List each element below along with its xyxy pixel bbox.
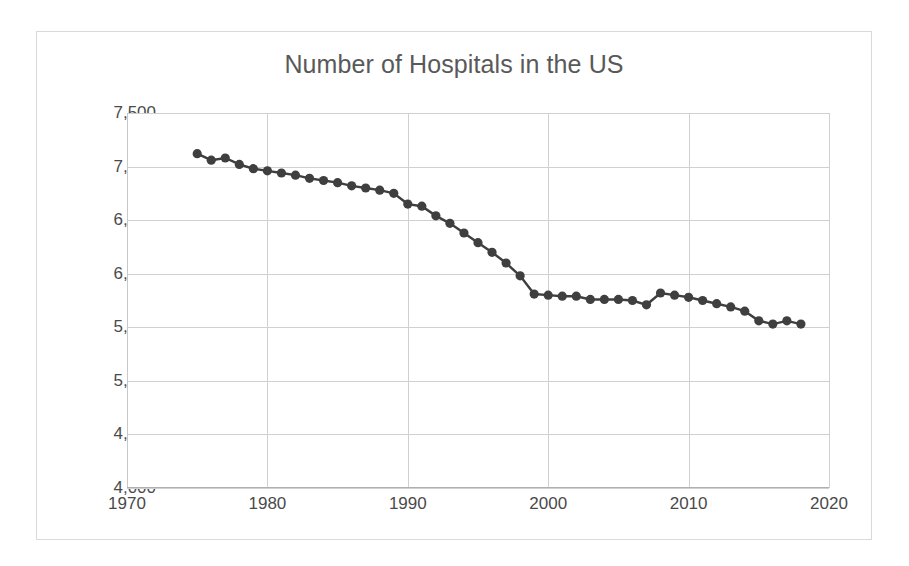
data-point-marker <box>417 202 426 211</box>
data-point-marker <box>207 156 216 165</box>
x-axis-tick-label: 1990 <box>389 494 427 514</box>
chart-screenshot: Number of Hospitals in the US 4,0004,500… <box>0 0 909 566</box>
data-point-marker <box>431 211 440 220</box>
data-point-marker <box>333 178 342 187</box>
x-axis-tick-label: 1970 <box>108 494 146 514</box>
data-point-marker <box>459 228 468 237</box>
series-polyline <box>197 154 801 324</box>
data-point-marker <box>558 292 567 301</box>
gridline-horizontal <box>127 488 829 489</box>
data-point-marker <box>516 271 525 280</box>
chart-title: Number of Hospitals in the US <box>37 50 871 79</box>
plot-area <box>127 113 829 488</box>
x-axis-tick-label: 2000 <box>529 494 567 514</box>
data-point-marker <box>389 189 398 198</box>
data-point-marker <box>796 319 805 328</box>
data-point-marker <box>768 319 777 328</box>
data-point-marker <box>403 199 412 208</box>
x-axis-tick-label: 2020 <box>810 494 848 514</box>
chart-frame: Number of Hospitals in the US 4,0004,500… <box>36 31 872 540</box>
data-point-marker <box>501 258 510 267</box>
data-point-marker <box>249 164 258 173</box>
data-point-marker <box>263 166 272 175</box>
data-point-marker <box>586 295 595 304</box>
gridline-vertical <box>829 113 830 488</box>
data-point-marker <box>726 302 735 311</box>
data-point-marker <box>319 176 328 185</box>
data-point-marker <box>291 171 300 180</box>
data-point-marker <box>487 248 496 257</box>
x-axis-tick-label: 1980 <box>248 494 286 514</box>
data-point-marker <box>698 296 707 305</box>
data-point-marker <box>600 295 609 304</box>
data-point-marker <box>656 288 665 297</box>
x-axis-tick-label: 2010 <box>670 494 708 514</box>
data-point-marker <box>754 316 763 325</box>
data-point-marker <box>305 174 314 183</box>
data-point-marker <box>221 153 230 162</box>
data-point-marker <box>235 160 244 169</box>
data-point-marker <box>670 291 679 300</box>
data-point-marker <box>530 289 539 298</box>
data-point-marker <box>712 299 721 308</box>
data-point-marker <box>193 149 202 158</box>
x-axis-tick-labels: 197019801990200020102020 <box>127 494 829 524</box>
data-point-marker <box>684 293 693 302</box>
data-point-marker <box>277 168 286 177</box>
data-point-marker <box>572 292 581 301</box>
data-point-marker <box>740 307 749 316</box>
data-point-marker <box>642 300 651 309</box>
data-point-marker <box>544 291 553 300</box>
data-point-marker <box>614 295 623 304</box>
data-point-marker <box>375 186 384 195</box>
data-point-marker <box>473 238 482 247</box>
data-series-line <box>127 113 829 488</box>
data-point-marker <box>361 183 370 192</box>
data-point-marker <box>445 219 454 228</box>
data-point-marker <box>782 316 791 325</box>
data-point-marker <box>347 181 356 190</box>
data-point-marker <box>628 296 637 305</box>
